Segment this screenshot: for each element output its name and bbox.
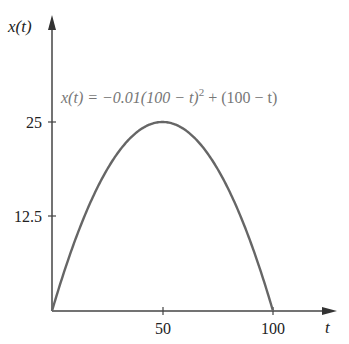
- x-tick-label-50: 50: [155, 320, 171, 337]
- y-axis-label: x(t): [7, 17, 32, 36]
- parabola-curve: [52, 122, 273, 311]
- equation-tail: + (100 − t): [204, 89, 277, 107]
- x-tick-label-100: 100: [261, 320, 285, 337]
- equation-annotation: x(t) = −0.01(100 − t)2 + (100 − t): [60, 86, 277, 107]
- y-tick-label-12-5: 12.5: [14, 208, 42, 225]
- y-tick-label-25: 25: [26, 114, 42, 131]
- equation-main: x(t) = −0.01(100 − t): [60, 89, 199, 107]
- y-axis-arrow-icon: [48, 15, 56, 30]
- x-axis-arrow-icon: [322, 307, 337, 315]
- chart: x(t) t 25 12.5 50 100 x(t) = −0.01(100 −…: [0, 0, 349, 344]
- x-axis-label: t: [325, 318, 331, 337]
